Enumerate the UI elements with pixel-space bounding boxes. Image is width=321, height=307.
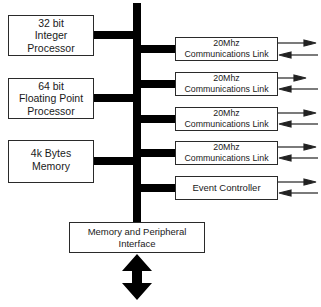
block-label: 20Mhz <box>213 108 239 119</box>
block-label: 32 bit <box>38 17 64 30</box>
block-label: Floating Point <box>19 92 83 105</box>
bus-stub-float <box>93 94 135 102</box>
integer-processor-block: 32 bit Integer Processor <box>8 15 94 56</box>
bus-stub-event <box>139 184 176 192</box>
block-label: Integer <box>35 29 68 42</box>
block-label: 20Mhz <box>213 38 239 49</box>
io-arrows-event <box>278 179 318 196</box>
block-label: Memory and Peripheral <box>88 226 187 237</box>
memory-block: 4k Bytes Memory <box>8 140 94 183</box>
block-label: 64 bit <box>38 80 64 93</box>
io-arrows-link4 <box>278 144 318 161</box>
block-label: Communications Link <box>184 84 268 95</box>
bus-stub-link1 <box>139 45 176 53</box>
block-label: Communications Link <box>184 49 268 60</box>
bus-stub-memory <box>93 157 135 165</box>
bus-stub-link2 <box>139 80 176 88</box>
block-label: 4k Bytes <box>31 147 71 160</box>
bus-stub-integer <box>93 31 135 39</box>
block-label: Event Controller <box>192 182 260 194</box>
block-label: Communications Link <box>184 153 268 164</box>
io-arrows-link1 <box>278 40 318 58</box>
bus-stub-link3 <box>139 115 176 123</box>
block-label: Interface <box>119 238 156 249</box>
bus-stub-link4 <box>139 149 176 157</box>
block-label: 20Mhz <box>213 142 239 153</box>
comm-link-block-1: 20Mhz Communications Link <box>175 37 278 61</box>
floating-point-processor-block: 64 bit Floating Point Processor <box>8 78 94 119</box>
block-label: Memory <box>32 160 70 173</box>
event-controller-block: Event Controller <box>175 176 278 200</box>
comm-link-block-2: 20Mhz Communications Link <box>175 72 278 96</box>
memory-peripheral-interface-block: Memory and Peripheral Interface <box>69 222 205 253</box>
block-label: 20Mhz <box>213 73 239 84</box>
block-label: Processor <box>27 105 74 118</box>
block-label: Communications Link <box>184 119 268 130</box>
io-arrows-link3 <box>278 110 318 127</box>
bidirectional-arrow-icon <box>122 254 152 300</box>
comm-link-block-4: 20Mhz Communications Link <box>175 141 278 165</box>
block-label: Processor <box>27 42 74 55</box>
io-arrows-link2 <box>278 75 318 92</box>
comm-link-block-3: 20Mhz Communications Link <box>175 107 278 131</box>
